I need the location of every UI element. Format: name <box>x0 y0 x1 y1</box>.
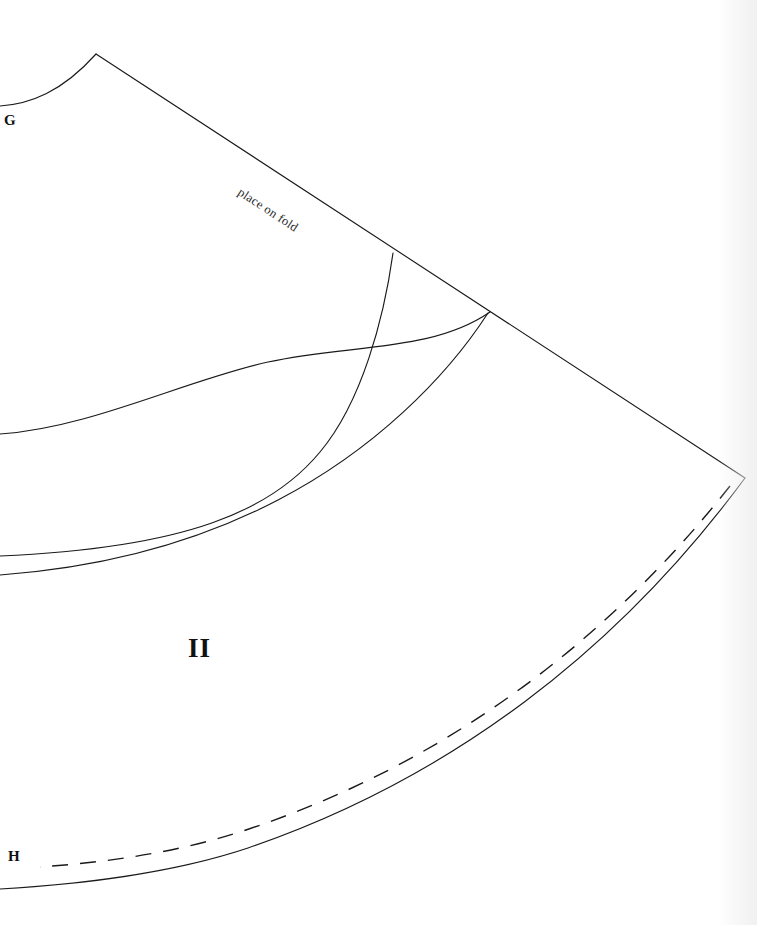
inner-seam-curve <box>0 253 393 556</box>
piece-number-label: II <box>188 633 211 664</box>
hem-allowance-dashed-line <box>40 486 730 867</box>
shoulder-curve-g <box>0 54 96 106</box>
corner-label-h: H <box>8 848 20 865</box>
corner-label-g: G <box>4 112 16 129</box>
hem-arc <box>0 478 745 889</box>
waist-seam-curve <box>0 313 488 575</box>
pattern-drawing <box>0 0 757 925</box>
fold-edge-line <box>96 54 745 478</box>
upper-style-curve <box>0 312 490 434</box>
pattern-sheet: G H II place on fold <box>0 0 757 925</box>
